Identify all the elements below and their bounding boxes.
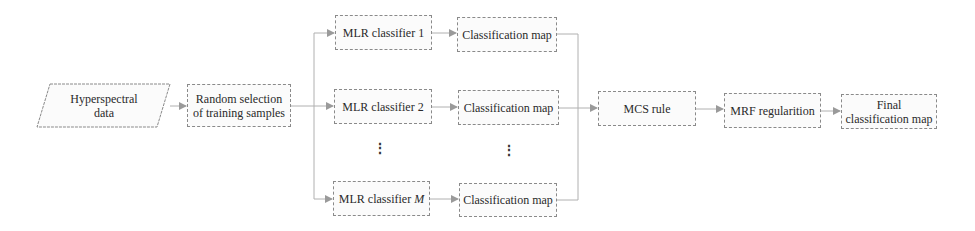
input-node: Hyperspectral data <box>44 84 164 127</box>
sampling-label-line1: Random selection <box>196 92 282 106</box>
mlr-classifier-2-node: MLR classifier 2 <box>334 89 432 124</box>
classification-map-m-label: Classification map <box>463 193 553 207</box>
classification-map-1-label: Classification map <box>462 28 552 42</box>
classification-map-m-node: Classification map <box>459 183 557 217</box>
input-label-line2: data <box>94 106 114 120</box>
mlr-classifier-1-label: MLR classifier 1 <box>343 26 424 40</box>
classification-map-2-node: Classification map <box>458 90 559 125</box>
input-label-line1: Hyperspectral <box>70 92 137 106</box>
classification-map-1-node: Classification map <box>457 17 557 52</box>
sampling-node: Random selection of training samples <box>187 84 291 127</box>
mrf-regularization-label: MRF regularition <box>730 104 814 118</box>
mlr-classifier-m-prefix: MLR classifier <box>339 192 414 206</box>
ellipsis-maps: ⋮ <box>502 148 512 153</box>
ellipsis-classifiers: ⋮ <box>373 146 383 151</box>
final-map-node: Final classification map <box>841 94 937 129</box>
mcs-rule-label: MCS rule <box>623 102 670 116</box>
mlr-classifier-2-label: MLR classifier 2 <box>342 100 423 114</box>
mlr-classifier-m-label: MLR classifier M <box>339 192 424 206</box>
final-map-label-line2: classification map <box>846 112 933 126</box>
mlr-classifier-m-node: MLR classifier M <box>333 181 430 216</box>
mlr-classifier-1-node: MLR classifier 1 <box>335 15 432 50</box>
mlr-classifier-m-var: M <box>414 192 424 206</box>
sampling-label-line2: of training samples <box>193 106 285 120</box>
final-map-label-line1: Final <box>877 98 902 112</box>
mrf-regularization-node: MRF regularition <box>724 93 821 128</box>
classification-map-2-label: Classification map <box>464 101 554 115</box>
mcs-rule-node: MCS rule <box>598 91 696 126</box>
